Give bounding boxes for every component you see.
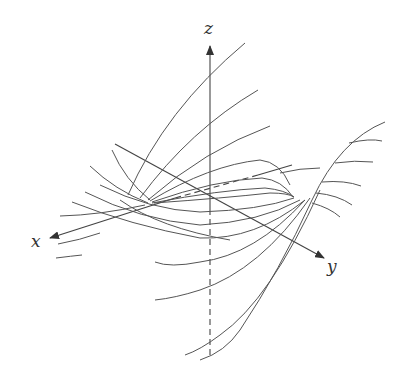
z-axis-label: z <box>204 18 213 38</box>
figure-canvas: z x y <box>0 0 404 372</box>
left-fragments <box>56 233 100 258</box>
right-s-curve <box>200 122 385 360</box>
upper-curves <box>128 43 294 203</box>
middle-curves <box>60 150 305 240</box>
y-axis-label: y <box>327 256 337 276</box>
x-axis-label: x <box>31 231 41 251</box>
lower-curves <box>155 190 320 355</box>
surface-diagram <box>0 0 404 372</box>
